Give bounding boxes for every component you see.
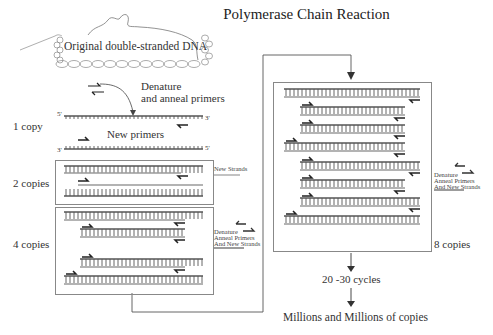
denature-label-1: Denature bbox=[141, 80, 181, 92]
new-strands-legend: New Strands bbox=[214, 165, 247, 172]
cycles-arrowhead bbox=[347, 266, 355, 272]
eight-copies-box bbox=[273, 82, 432, 252]
stage-label-1-copy: 1 copy bbox=[13, 120, 43, 132]
five-prime-bottom: 5' bbox=[205, 144, 210, 152]
denature-arrow bbox=[100, 84, 133, 112]
template-strand-bottom bbox=[64, 146, 203, 149]
helix-turn bbox=[202, 59, 209, 65]
helix-turn bbox=[116, 61, 128, 68]
stage-label-8-copies: 8 copies bbox=[434, 238, 470, 250]
helix-turn bbox=[152, 61, 164, 68]
legend-newstrands-2: And New Strands bbox=[434, 183, 480, 190]
reverse-primer bbox=[178, 125, 188, 128]
connector-arrowhead bbox=[347, 72, 355, 80]
denature-label-2: and anneal primers bbox=[141, 92, 225, 104]
three-prime-top: 3' bbox=[205, 114, 210, 122]
legend-primer-icon-3 bbox=[455, 163, 465, 166]
four-copies-box bbox=[55, 207, 214, 295]
helix-turn bbox=[188, 61, 200, 68]
helix-turn bbox=[92, 61, 104, 68]
legend-primer-icon-4 bbox=[462, 170, 473, 173]
new-primers-label: New primers bbox=[107, 128, 164, 140]
helix-turn bbox=[80, 61, 92, 68]
helix-turn bbox=[140, 61, 152, 68]
legend-primer-icon-1 bbox=[236, 221, 246, 224]
helix-turn bbox=[57, 57, 63, 63]
helix-turn bbox=[206, 53, 213, 59]
two-copies-box bbox=[55, 160, 214, 205]
helix-turn bbox=[176, 61, 188, 68]
legend-newstrands-1: And New Strands bbox=[214, 240, 260, 247]
three-prime-bottom: 3' bbox=[57, 146, 62, 154]
five-prime-top: 5' bbox=[57, 110, 62, 118]
helix-turn bbox=[68, 61, 80, 68]
forward-primer bbox=[78, 137, 88, 140]
legend-primer-icon-2 bbox=[243, 228, 254, 231]
cycles-label: 20 -30 cycles bbox=[322, 273, 381, 285]
helix-turn bbox=[128, 61, 140, 68]
result-label: Millions and Millions of copies bbox=[283, 311, 428, 323]
dna-loose-strand bbox=[88, 15, 198, 60]
stage-label-2-copies: 2 copies bbox=[13, 177, 49, 189]
helix-turn bbox=[164, 61, 176, 68]
template-strand-top bbox=[64, 116, 203, 119]
result-arrowhead bbox=[347, 301, 355, 307]
helix-turn bbox=[104, 61, 116, 68]
original-dna-label: Original double-stranded DNA bbox=[64, 40, 207, 52]
primer-icon bbox=[88, 83, 104, 95]
stage-label-4-copies: 4 copies bbox=[13, 238, 49, 250]
denature-arrowhead bbox=[130, 110, 136, 116]
